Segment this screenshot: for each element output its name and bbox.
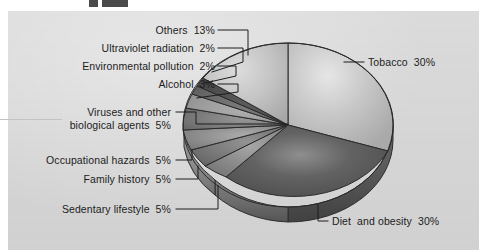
slice-label-viruses-line2: biological agents 5% xyxy=(70,119,171,131)
slice-label-ultraviolet-radiation: Ultraviolet radiation 2% xyxy=(48,42,215,55)
slice-label-family-history: Family history 5% xyxy=(58,173,171,186)
pie-chart-figure: Others 13% Ultraviolet radiation 2% Envi… xyxy=(0,0,479,250)
slice-label-occupational-hazards: Occupational hazards 5% xyxy=(30,154,171,167)
slice-label-viruses-line1: Viruses and other xyxy=(87,106,171,118)
slice-label-diet-and-obesity: Diet and obesity 30% xyxy=(332,215,472,228)
slice-label-viruses-and-other-biological-agents: Viruses and otherbiological agents 5% xyxy=(50,106,171,131)
slice-label-environmental-pollution: Environmental pollution 2% xyxy=(28,60,215,73)
pie-chart-stage: Others 13% Ultraviolet radiation 2% Envi… xyxy=(0,0,479,250)
slice-label-sedentary-lifestyle: Sedentary lifestyle 5% xyxy=(40,203,171,216)
slice-label-alcohol: Alcohol 3% xyxy=(88,78,215,91)
slice-label-tobacco: Tobacco 30% xyxy=(368,56,476,69)
slice-label-others: Others 13% xyxy=(106,24,215,37)
